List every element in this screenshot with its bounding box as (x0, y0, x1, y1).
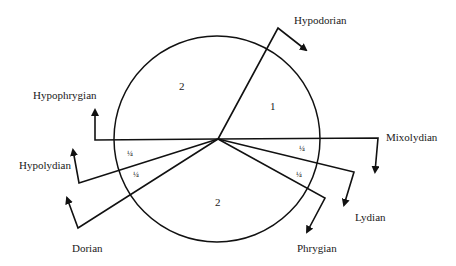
label-phrygian: Phrygian (297, 242, 337, 254)
hypolydian-path (73, 139, 218, 183)
sector-bottom-value: 2 (215, 196, 221, 208)
dorian-path (67, 139, 218, 228)
sector-left-quarter-2-value: ¼ (133, 170, 139, 179)
label-dorian: Dorian (72, 242, 103, 254)
label-hypophrygian: Hypophrygian (33, 89, 97, 101)
sector-left-quarter-1-value: ¼ (127, 149, 133, 158)
sector-right-quarter-2-value: ¼ (296, 170, 302, 179)
sector-upper-left-value: 2 (179, 80, 185, 92)
lydian-path (218, 139, 354, 205)
sector-upper-right-value: 1 (270, 100, 276, 112)
mixolydian-path (218, 138, 378, 172)
label-mixolydian: Mixolydian (386, 131, 438, 143)
sector-right-quarter-1-value: ¼ (299, 144, 305, 153)
label-hypodorian: Hypodorian (294, 14, 347, 26)
modal-circle-diagram: Hypodorian Mixolydian Lydian Phrygian Do… (0, 0, 456, 266)
hypodorian-path (218, 28, 306, 139)
label-hypolydian: Hypolydian (19, 159, 71, 171)
label-lydian: Lydian (355, 211, 386, 223)
